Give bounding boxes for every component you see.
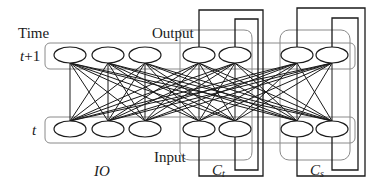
node-t-io-0: [54, 121, 86, 137]
node-t-plus-1-io-1: [92, 47, 124, 63]
node-t-plus-1-ct-3: [183, 47, 215, 63]
ct-feedback-loop-outer: [199, 10, 263, 176]
cs-label: Cs: [310, 162, 324, 179]
cs-feedback-loop-outer: [297, 8, 365, 176]
node-t-plus-1-cs-6: [316, 47, 348, 63]
cs-feedback-loop-inner: [332, 18, 358, 170]
io-label: IO: [93, 163, 110, 179]
node-t-plus-1-io-0: [54, 47, 86, 63]
node-t-ct-3: [183, 121, 215, 137]
t-plus-1-label: t+1: [20, 48, 40, 64]
node-t-io-1: [92, 121, 124, 137]
node-t-cs-5: [281, 121, 313, 137]
node-t-plus-1-io-2: [129, 47, 161, 63]
connections: [70, 63, 332, 121]
node-t-io-2: [129, 121, 161, 137]
node-t-cs-6: [316, 121, 348, 137]
input-label: Input: [154, 149, 186, 165]
node-t-plus-1-ct-4: [219, 47, 251, 63]
network-diagram: Time t+1 t Output Input IO Ct Cs: [0, 0, 385, 190]
time-label: Time: [18, 25, 49, 41]
output-label: Output: [152, 25, 195, 41]
t-label: t: [32, 122, 37, 138]
node-t-plus-1-cs-5: [281, 47, 313, 63]
node-t-ct-4: [219, 121, 251, 137]
ct-label: Ct: [212, 162, 225, 179]
